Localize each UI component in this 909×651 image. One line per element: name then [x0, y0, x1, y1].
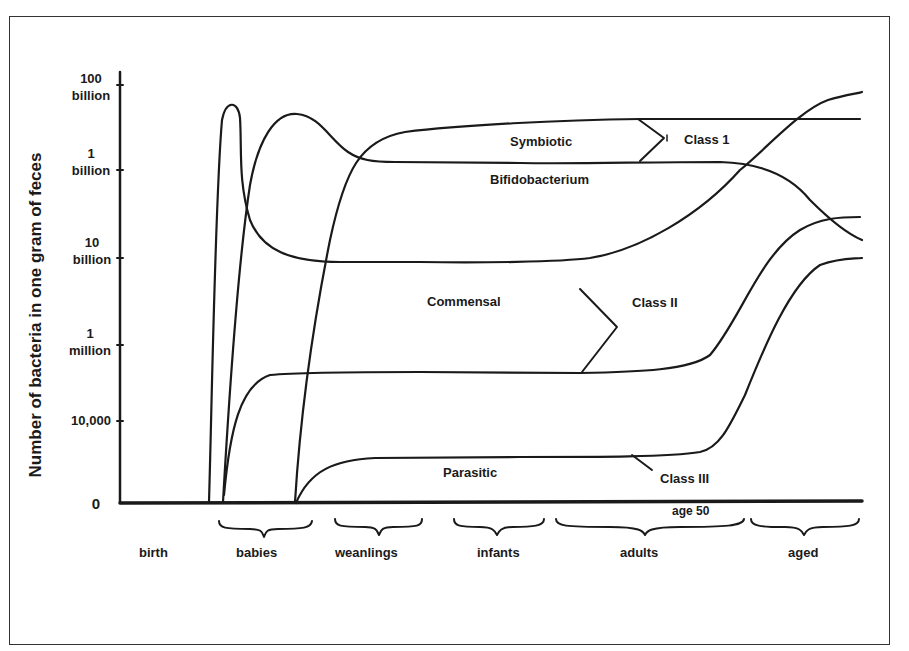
tick-text: billion — [66, 87, 116, 104]
brace-aged — [751, 519, 859, 535]
chart-plot — [0, 0, 909, 651]
curve-bifidobacterium — [209, 92, 862, 502]
y-tick-1-million: 1 million — [62, 325, 118, 359]
tick-text: billion — [66, 251, 118, 268]
label-class-1: Class 1 — [684, 132, 730, 147]
label-parasitic: Parasitic — [443, 465, 497, 480]
y-tick-10-billion: 10 billion — [66, 234, 118, 268]
class3-pointer — [632, 455, 652, 470]
tick-text: 1 — [62, 325, 118, 342]
curve-commensal-lower — [224, 217, 860, 495]
stage-adults: adults — [620, 545, 658, 560]
tick-text: 1 — [66, 145, 116, 162]
brace-infants — [454, 519, 544, 535]
brace-babies — [219, 521, 312, 537]
y-tick-100-billion: 100 billion — [66, 70, 116, 104]
tick-text: million — [62, 342, 118, 359]
stage-aged: aged — [788, 545, 818, 560]
label-age-50: age 50 — [672, 504, 709, 518]
tick-text: 10 — [66, 234, 118, 251]
stage-birth: birth — [139, 545, 168, 560]
label-class-3: Class III — [660, 471, 709, 486]
y-tick-0: 0 — [88, 495, 104, 512]
brace-adults — [556, 519, 744, 535]
stage-infants: infants — [477, 545, 520, 560]
y-axis-label: Number of bacteria in one gram of feces — [26, 153, 46, 478]
brace-weanlings — [335, 519, 422, 535]
label-class-2: Class II — [632, 295, 678, 310]
stage-babies: babies — [236, 545, 277, 560]
stage-weanlings: weanlings — [335, 545, 398, 560]
class2-bracket — [580, 289, 617, 372]
label-bifidobacterium: Bifidobacterium — [490, 172, 589, 187]
label-commensal: Commensal — [427, 294, 501, 309]
tick-text: billion — [66, 162, 116, 179]
x-axis — [120, 501, 862, 503]
curve-parasitic — [296, 258, 862, 503]
label-symbiotic: Symbiotic — [510, 134, 572, 149]
y-tick-10000: 10,000 — [64, 412, 118, 429]
class1-bracket — [638, 119, 664, 161]
y-tick-1-billion: 1 billion — [66, 145, 116, 179]
tick-text: 100 — [66, 70, 116, 87]
